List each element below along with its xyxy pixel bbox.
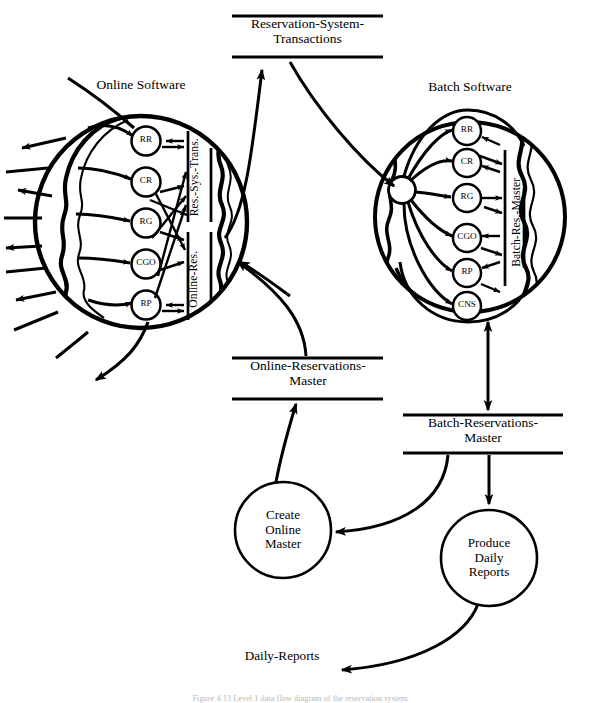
bubble-title-batch-software: Batch Software [411, 80, 529, 95]
online-node-rr[interactable]: RR [131, 135, 161, 145]
batch-node-rr[interactable]: RR [452, 125, 482, 135]
figure-caption: Figure 4.13 Level 1 data flow diagram of… [105, 694, 495, 703]
store-label-batch-reservations-master: Batch-Reservations- Master [403, 416, 563, 445]
bubble-title-online-software: Online Software [81, 78, 201, 93]
bubble-batch-software [375, 110, 565, 322]
flow-batch-master-to-create-online [336, 455, 448, 532]
flow-external-bottom-left [56, 332, 88, 358]
process-label-produce-daily-reports: Produce Daily Reports [449, 536, 529, 580]
online-node-cr[interactable]: CR [131, 176, 161, 186]
store-label-online-reservations-master: Online-Reservations- Master [228, 359, 388, 388]
flow-produce-reports-to-daily-reports [342, 604, 478, 670]
store-label-batch-res-master: Batch-Res.-Master [511, 160, 524, 284]
batch-node-circles [453, 117, 481, 320]
online-node-rp[interactable]: RP [131, 299, 161, 309]
online-node-rg[interactable]: RG [131, 217, 161, 227]
online-node-cgo[interactable]: CGO [131, 258, 161, 268]
store-label-res-sys-trans: Res.-Sys.-Trans. [189, 122, 202, 232]
flow-online-to-res-sys-trans [225, 70, 262, 238]
online-node-branches [76, 126, 133, 305]
process-label-create-online-master: Create Online Master [243, 508, 323, 552]
batch-internal-flows [480, 137, 502, 292]
flow-external-right-into-online [240, 262, 290, 296]
flow-create-master-to-online-master [276, 404, 296, 482]
flow-res-sys-trans-to-batch [290, 62, 394, 186]
batch-node-cgo[interactable]: CGO [452, 232, 482, 242]
batch-node-rp[interactable]: RP [452, 267, 482, 277]
flow-online-master-to-online-bubble [238, 262, 306, 356]
store-label-online-res: Online-Res. [188, 231, 201, 327]
flow-online-bottom-out [96, 322, 148, 380]
batch-node-cns[interactable]: CNS [452, 300, 482, 310]
flow-label-daily-reports: Daily-Reports [222, 649, 342, 663]
batch-node-rg[interactable]: RG [452, 192, 482, 202]
store-label-reservation-system-transactions: Reservation-System- Transactions [232, 17, 383, 46]
batch-node-cr[interactable]: CR [452, 157, 482, 167]
